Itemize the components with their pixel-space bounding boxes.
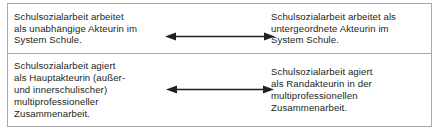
table-row: Schulsozialarbeit arbeitet als unabhängi… [8, 4, 431, 54]
double-headed-arrow-icon [165, 30, 275, 42]
row-2-left-statement: Schulsozialarbeit agiert als Hauptakteur… [8, 60, 168, 120]
figure-root: Schulsozialarbeit arbeitet als unabhängi… [0, 0, 440, 135]
row-1-right-statement: Schulsozialarbeit arbeitet als untergeor… [271, 11, 431, 47]
row-1-left-statement: Schulsozialarbeit arbeitet als unabhängi… [8, 11, 168, 47]
row-2-right-statement: Schulsozialarbeit agiert als Randakteuri… [271, 66, 431, 114]
table-row: Schulsozialarbeit agiert als Hauptakteur… [8, 54, 431, 126]
double-headed-arrow-icon [165, 83, 275, 95]
comparison-table: Schulsozialarbeit arbeitet als unabhängi… [7, 3, 432, 127]
